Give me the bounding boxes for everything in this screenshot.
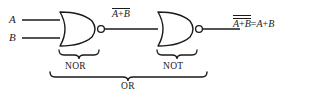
nor-gate-body — [60, 12, 95, 46]
nor-gate-bubble — [98, 26, 105, 33]
output-right-operand-b: B — [268, 18, 274, 29]
diagram-vector-layer — [0, 0, 313, 93]
intermediate-expression: A+B — [112, 8, 130, 19]
not-brace-label: NOT — [163, 62, 183, 72]
nor-brace-label: NOR — [65, 62, 86, 72]
output-left-operand-b: B — [245, 18, 251, 29]
not-gate-bubble — [196, 26, 203, 33]
input-label-b: B — [9, 32, 16, 43]
output-double-overline-group: A+B — [233, 15, 251, 29]
not-gate-body — [158, 12, 193, 46]
logic-diagram: A B A+B A+B=A+B NOR NOT OR — [0, 0, 313, 93]
or-brace — [50, 72, 207, 81]
output-expression: A+B=A+B — [233, 15, 274, 29]
intermediate-operand-b: B — [124, 8, 130, 19]
or-brace-label: OR — [121, 82, 135, 92]
nor-brace — [59, 50, 99, 59]
intermediate-overline-group: A+B — [112, 8, 130, 19]
not-brace — [157, 50, 197, 59]
input-label-a: A — [9, 14, 16, 25]
